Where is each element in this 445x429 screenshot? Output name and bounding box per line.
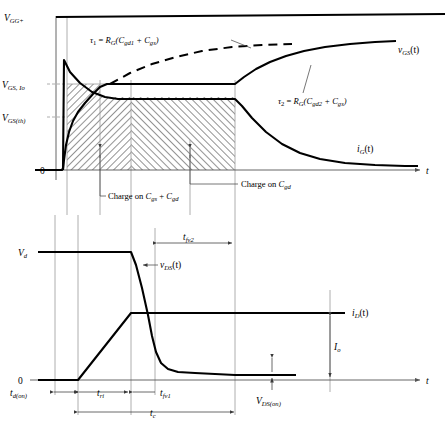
lower-ylabel-vd: Vd [18, 248, 28, 259]
tau1-annotation: τ1 = RG(Cgd1 + Cgs) [90, 35, 159, 46]
vdson-level-label: VDS(on) [256, 396, 281, 408]
upper-ylabel-vgg: VGG+ [4, 13, 24, 24]
vds-curve-label: vDS(t) [160, 260, 181, 271]
upper-ylabel-vgs-th: VGS(th) [2, 113, 25, 125]
tc-interval-label: tc [150, 408, 156, 419]
lower-ylabel-zero: 0 [18, 376, 23, 386]
upper-ylabel-vgs-io: VGS, Io [2, 80, 25, 91]
io-level-label: Io [333, 342, 341, 353]
charge-cgd-annotation: Charge on Cgd [241, 179, 292, 190]
tfv2-interval-label: tfv2 [183, 232, 194, 243]
figure-root: VGG+ VGS, Io VGS(th) 0 t vGS(t) iG(t) τ1… [0, 0, 445, 429]
ig-curve-label: iG(t) [357, 144, 373, 155]
charge-region-cgs-cgd [67, 84, 131, 170]
charge-region-cgd [131, 97, 235, 170]
charge-cgs-cgd-annotation: Charge on Cgs + Cgd [108, 191, 179, 202]
id-curve-label: iD(t) [352, 308, 368, 319]
upper-xlabel: t [426, 166, 429, 176]
id-curve [38, 313, 345, 380]
vgg-rail [56, 14, 445, 17]
upper-ylabel-zero: 0 [40, 166, 45, 176]
tri-interval-label: tri [97, 388, 104, 399]
tau2-leader [303, 65, 311, 93]
tfv1-interval-label: tfv1 [160, 388, 171, 399]
switching-waveform-figure: VGG+ VGS, Io VGS(th) 0 t vGS(t) iG(t) τ1… [0, 0, 445, 429]
td-on-interval-label: td(on) [10, 388, 27, 400]
tau2-annotation: τ2 = RG(Cgd2 + Cgs) [278, 96, 347, 107]
vgs-curve-label: vGS(t) [398, 45, 419, 56]
lower-xlabel: t [426, 376, 429, 386]
